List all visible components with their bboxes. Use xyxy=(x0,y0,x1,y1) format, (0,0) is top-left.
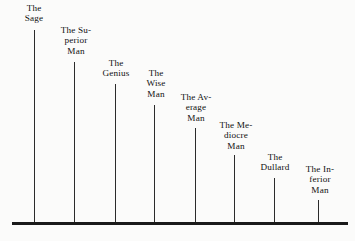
label-line: Man xyxy=(306,185,334,195)
label-inferior-man: The In-feriorMan xyxy=(306,164,334,195)
stem-genius xyxy=(115,84,116,222)
label-line: The xyxy=(146,68,165,78)
label-line: Sage xyxy=(25,13,43,23)
label-wise-man: TheWiseMan xyxy=(146,68,165,99)
stem-dullard xyxy=(274,178,275,222)
label-superior-man: The Su-periorMan xyxy=(61,25,91,56)
stem-wise-man xyxy=(154,105,155,222)
label-line: The Av- xyxy=(181,92,212,102)
stem-inferior-man xyxy=(318,200,319,222)
chart-canvas: TheSageThe Su-periorManTheGeniusTheWiseM… xyxy=(0,0,355,241)
stem-superior-man xyxy=(74,62,75,222)
label-dullard: TheDullard xyxy=(260,152,289,173)
label-line: perior xyxy=(61,35,91,45)
label-line: Man xyxy=(181,113,212,123)
label-line: Man xyxy=(220,141,253,151)
label-line: The In- xyxy=(306,164,334,174)
label-line: Man xyxy=(146,89,165,99)
label-line: Dullard xyxy=(260,162,289,172)
label-average-man: The Av-erageMan xyxy=(181,92,212,123)
label-line: The xyxy=(260,152,289,162)
label-line: diocre xyxy=(220,130,253,140)
label-mediocre-man: The Me-diocreMan xyxy=(220,120,253,151)
label-line: Wise xyxy=(146,78,165,88)
label-sage: TheSage xyxy=(25,3,43,24)
label-genius: TheGenius xyxy=(103,58,130,79)
label-line: The Me- xyxy=(220,120,253,130)
label-line: Genius xyxy=(103,68,130,78)
label-line: The xyxy=(103,58,130,68)
stem-sage xyxy=(34,30,35,222)
label-line: Man xyxy=(61,46,91,56)
label-line: ferior xyxy=(306,174,334,184)
stem-average-man xyxy=(195,128,196,222)
label-line: The Su- xyxy=(61,25,91,35)
chart-baseline xyxy=(12,222,348,225)
stem-mediocre-man xyxy=(234,155,235,222)
label-line: erage xyxy=(181,102,212,112)
label-line: The xyxy=(25,3,43,13)
